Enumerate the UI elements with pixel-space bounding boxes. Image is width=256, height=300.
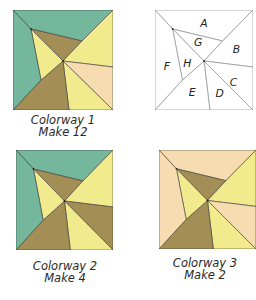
piece-label-c: C — [230, 76, 238, 89]
corner-point-marker — [33, 168, 35, 170]
quilt-block-colorway-2 — [16, 150, 113, 250]
center-point-marker — [64, 200, 66, 202]
colorway-3-quantity: Make 2 — [150, 269, 256, 281]
colorway-1-quantity: Make 12 — [8, 126, 118, 138]
piece-label-h: H — [183, 57, 191, 70]
quilt-block-colorway-3 — [159, 150, 256, 249]
piece-label-a: A — [199, 17, 207, 30]
corner-point-marker — [176, 168, 178, 170]
center-point-marker — [203, 60, 205, 62]
colorway-1-caption: Colorway 1 Make 12 — [8, 114, 118, 138]
piece-label-e: E — [189, 86, 196, 99]
center-point-marker — [207, 200, 209, 202]
colorway-3-block — [159, 150, 256, 249]
center-point-marker — [62, 60, 64, 62]
colorway-2-block — [16, 150, 113, 250]
piece-label-b: B — [233, 43, 240, 56]
colorway-2-quantity: Make 4 — [10, 272, 120, 284]
quilt-block-piece-key: AGBCDEHF — [155, 10, 253, 110]
piece-label-g: G — [194, 36, 202, 49]
colorway-3-caption: Colorway 3 Make 2 — [150, 257, 256, 281]
colorway-2-caption: Colorway 2 Make 4 — [10, 260, 120, 284]
corner-point-marker — [30, 28, 32, 30]
corner-point-marker — [172, 28, 174, 30]
piece-label-d: D — [216, 87, 224, 100]
quilt-block-colorway-1 — [13, 10, 113, 110]
colorway-1-block — [13, 10, 113, 110]
piece-label-f: F — [164, 60, 171, 73]
piece-key-block: AGBCDEHF — [155, 10, 253, 110]
